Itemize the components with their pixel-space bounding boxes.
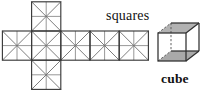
label-squares: squares bbox=[106, 9, 149, 23]
cube-figure bbox=[158, 23, 199, 61]
label-cube: cube bbox=[161, 72, 189, 86]
figure-canvas: squares cube bbox=[0, 0, 205, 95]
